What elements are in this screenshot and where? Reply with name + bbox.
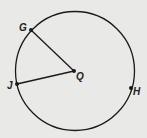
label-j: J [7,80,13,91]
label-g: G [19,22,27,33]
radius-qg [31,30,74,71]
label-h: H [133,86,141,97]
radius-qj [17,71,74,84]
circle-diagram: G J Q H [0,0,147,138]
point-j [15,82,19,86]
label-q: Q [76,71,84,82]
point-g [29,28,33,32]
